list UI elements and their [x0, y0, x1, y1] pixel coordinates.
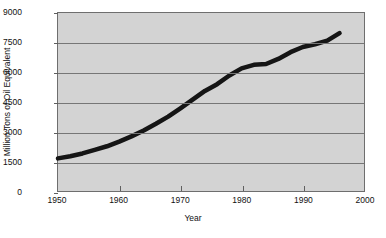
y-axis-tick-3000 — [54, 133, 58, 134]
gridline-y-3000 — [58, 133, 364, 134]
y-axis-label-0: 0 — [17, 187, 22, 197]
x-axis-label-1950: 1950 — [48, 195, 67, 205]
series-line-world-energy-consumption — [58, 33, 340, 158]
gridline-y-7500 — [58, 43, 364, 44]
x-axis-label-2000: 2000 — [356, 195, 375, 205]
y-axis-tick-0 — [54, 193, 58, 194]
gridline-y-6000 — [58, 73, 364, 74]
y-axis-tick-1500 — [54, 163, 58, 164]
plot-area — [57, 12, 365, 192]
x-axis-label-1980: 1980 — [232, 195, 251, 205]
gridline-y-4500 — [58, 103, 364, 104]
y-axis-title: Million Tons of Oil Equivalent — [2, 12, 13, 192]
x-axis-tick-1960 — [120, 186, 121, 191]
chart-root: 0150030004500600075009000 19501960197019… — [0, 0, 386, 238]
x-axis-label-1960: 1960 — [109, 195, 128, 205]
gridline-y-1500 — [58, 163, 364, 164]
y-axis-tick-4500 — [54, 103, 58, 104]
x-axis-tick-1980 — [243, 186, 244, 191]
x-axis-label-1970: 1970 — [171, 195, 190, 205]
x-axis-label-1990: 1990 — [294, 195, 313, 205]
x-axis-tick-1970 — [181, 186, 182, 191]
x-axis-title: Year — [0, 213, 386, 223]
y-axis-tick-7500 — [54, 43, 58, 44]
x-axis-tick-1990 — [304, 186, 305, 191]
y-axis-tick-6000 — [54, 73, 58, 74]
series-layer — [58, 13, 364, 191]
y-axis-tick-9000 — [54, 13, 58, 14]
